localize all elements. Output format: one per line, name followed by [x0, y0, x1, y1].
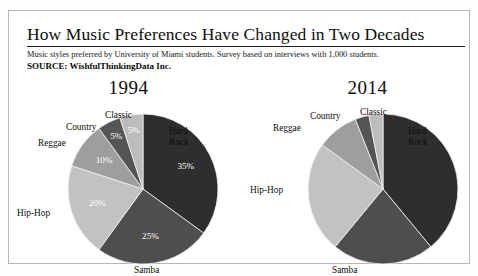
- slice-value-label: 10%: [96, 155, 113, 165]
- slice-value-label: 20%: [89, 198, 106, 208]
- pie-chart-2014: 2014 Hard Rock Samba Hip-Hop Reggae Coun…: [248, 77, 478, 276]
- label-samba-2014: Samba: [332, 265, 357, 276]
- pie-area-2014: Hard Rock Samba Hip-Hop Reggae Country C…: [248, 77, 478, 276]
- chart-source: SOURCE: WishfulThinkingData Inc.: [27, 61, 471, 72]
- slice-value-label: 25%: [142, 231, 159, 241]
- label-hard-rock-line2-1994: Rock: [169, 137, 189, 148]
- slice-value-label: 35%: [177, 161, 194, 171]
- label-reggae-2014: Reggae: [273, 123, 301, 134]
- title-divider: [27, 46, 465, 47]
- label-hard-rock-line1-1994: Hard: [169, 126, 189, 137]
- label-samba-1994: Samba: [134, 265, 159, 276]
- label-hard-rock-line2-2014: Rock: [408, 137, 428, 148]
- label-classic-2014: Classic: [360, 107, 387, 118]
- label-hard-rock-line1-2014: Hard: [408, 126, 428, 137]
- pie-area-1994: 35%25%20%10%5%5% Hard Rock Samba Hip-Hop…: [9, 77, 248, 276]
- chart-page: How Music Preferences Have Changed in Tw…: [0, 0, 478, 276]
- label-country-2014: Country: [310, 111, 340, 122]
- chart-header: How Music Preferences Have Changed in Tw…: [27, 24, 471, 72]
- label-hip-hop-1994: Hip-Hop: [17, 208, 50, 219]
- label-hip-hop-2014: Hip-Hop: [250, 185, 283, 196]
- chart-subtitle: Music styles preferred by University of …: [27, 49, 471, 60]
- label-hard-rock-2014: Hard Rock: [408, 126, 428, 147]
- label-country-1994: Country: [66, 122, 96, 133]
- slice-value-label: 5%: [110, 131, 123, 141]
- label-hard-rock-1994: Hard Rock: [169, 126, 189, 147]
- pie-svg-2014: [307, 113, 459, 265]
- pie-chart-1994: 1994 35%25%20%10%5%5% Hard Rock Samba Hi…: [9, 77, 248, 276]
- label-reggae-1994: Reggae: [38, 138, 66, 149]
- chart-frame: How Music Preferences Have Changed in Tw…: [8, 10, 470, 264]
- slice-value-label: 5%: [128, 125, 141, 135]
- page-title: How Music Preferences Have Changed in Tw…: [27, 24, 471, 45]
- label-classic-1994: Classic: [105, 110, 132, 121]
- pie-svg-1994: 35%25%20%10%5%5%: [67, 113, 219, 265]
